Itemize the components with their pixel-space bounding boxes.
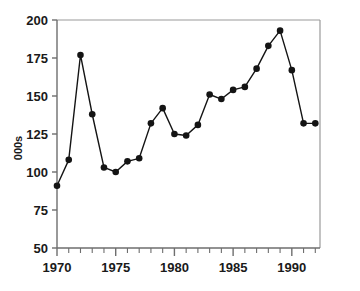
data-point (171, 131, 178, 138)
data-point (230, 87, 237, 94)
data-point (159, 105, 166, 112)
data-point (195, 122, 202, 129)
data-point (148, 120, 155, 127)
data-point (101, 164, 108, 171)
data-point (136, 155, 143, 162)
x-axis-tick-label: 1975 (101, 260, 130, 275)
x-axis-tick-label: 1990 (277, 260, 306, 275)
data-point (265, 43, 272, 50)
x-axis-tick-label: 1980 (160, 260, 189, 275)
data-point (77, 52, 84, 59)
y-axis-tick-label: 200 (26, 13, 48, 28)
data-point (112, 169, 119, 176)
data-point (242, 84, 249, 91)
y-axis-tick-label: 50 (34, 241, 48, 256)
x-axis-tick-label: 1970 (43, 260, 72, 275)
data-point (277, 27, 284, 34)
chart-figure: 5075100125150175200 19701975198019851990… (0, 0, 360, 291)
y-axis-tick-label: 150 (26, 89, 48, 104)
data-point (183, 132, 190, 139)
y-axis-tick-label: 175 (26, 51, 48, 66)
data-point (300, 120, 307, 127)
y-axis-tick-label: 75 (34, 203, 48, 218)
data-point (124, 158, 131, 165)
line-chart: 5075100125150175200 19701975198019851990… (0, 0, 360, 291)
data-point (65, 157, 72, 164)
data-point (54, 182, 61, 189)
data-point (218, 96, 225, 103)
data-point (312, 120, 319, 127)
y-axis-tick-label: 125 (26, 127, 48, 142)
x-axis-tick-label: 1985 (219, 260, 248, 275)
y-axis-tick-label: 100 (26, 165, 48, 180)
data-point (289, 67, 296, 74)
data-point (89, 111, 96, 118)
data-point (206, 91, 213, 98)
data-point (253, 65, 260, 72)
y-axis-title: 000s (12, 136, 24, 160)
